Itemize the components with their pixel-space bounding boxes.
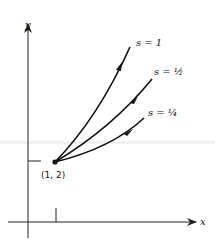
curve-label-s-quarter: s = ¼: [148, 107, 178, 118]
diagram-canvas: y x (1, 2) s = 1 s = ½ s = ¼: [0, 0, 215, 248]
y-axis-label: y: [24, 19, 31, 30]
curve-s-1: [55, 47, 130, 162]
curve-s-half: [55, 79, 152, 162]
start-point: [52, 159, 57, 164]
curve-label-s-1: s = 1: [136, 37, 162, 48]
curve-label-s-half: s = ½: [154, 66, 184, 77]
arrow-s-half: [130, 96, 138, 104]
arrow-s-1: [116, 62, 122, 71]
curve-s-quarter: [55, 118, 144, 162]
start-point-label: (1, 2): [41, 170, 65, 180]
x-axis-label: x: [200, 216, 206, 227]
